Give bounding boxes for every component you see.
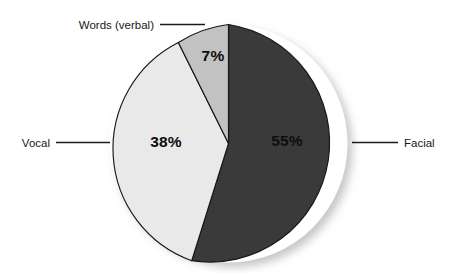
slice-value-vocal: 38% <box>150 133 182 150</box>
slice-value-words-verbal: 7% <box>202 47 225 64</box>
slice-value-facial: 55% <box>271 132 303 149</box>
pie-chart-svg: 55% 38% 7% Words (verbal) Vocal Facial <box>0 0 459 273</box>
category-label-facial: Facial <box>404 137 435 149</box>
pie-chart-figure: 55% 38% 7% Words (verbal) Vocal Facial <box>0 0 459 273</box>
category-label-words-verbal: Words (verbal) <box>79 19 154 31</box>
category-label-vocal: Vocal <box>22 137 50 149</box>
